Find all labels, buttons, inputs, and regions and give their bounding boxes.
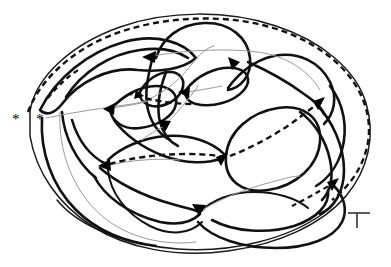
asterisk-outer-left-marker: * (12, 111, 20, 127)
asterisk-inner-left-marker: * (36, 111, 44, 127)
hand-drawn-diagram: * * * (0, 0, 391, 267)
lobe-bottom-center (100, 168, 200, 212)
lobe-left-lower-outer (62, 112, 96, 178)
lobe-right-mid (226, 107, 320, 190)
lobe-bottom-left-sweep (108, 170, 202, 232)
lobe-curves-group (40, 23, 345, 248)
arrowhead-node-mid-right (178, 87, 190, 98)
arrowhead-node-upper-left (142, 51, 156, 63)
arrowhead-node-mid-left (103, 103, 115, 115)
asterisk-center-marker: * (128, 89, 134, 101)
arrowhead-node-right-upper (313, 97, 325, 110)
thin-line-center-right (188, 86, 222, 92)
t-marker-bottom-right (348, 213, 370, 228)
thin-line-mid-right-low (106, 159, 180, 166)
thin-interior-lines-group (46, 46, 320, 243)
diagram-canvas: * * * (0, 0, 391, 267)
dashed-path-center-rise (230, 102, 322, 156)
